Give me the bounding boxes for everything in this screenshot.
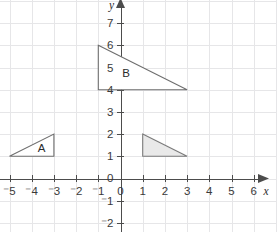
triangle-a <box>10 134 54 156</box>
triangle-image <box>143 134 187 156</box>
x-tick-label: ⁻3 <box>48 185 60 197</box>
shape-label-a: A <box>38 142 46 154</box>
y-tick-label-zero: 0 <box>107 172 113 184</box>
x-tick-label: 5 <box>228 185 234 197</box>
axes <box>0 0 269 232</box>
x-axis-arrow-icon <box>258 174 269 183</box>
y-tick-label: ⁻1 <box>101 195 113 207</box>
axis-tick-labels: ⁻5⁻4⁻3⁻2⁻10123456⁻2⁻101234567 <box>3 17 257 229</box>
y-axis-label: y <box>108 0 115 12</box>
grid-lines <box>0 0 277 232</box>
x-axis-label: x <box>262 185 269 197</box>
y-tick-label: 3 <box>107 106 113 118</box>
y-tick-label: 4 <box>107 84 114 96</box>
y-tick-label: 6 <box>107 39 113 51</box>
coordinate-plane-svg: ⁻5⁻4⁻3⁻2⁻10123456⁻2⁻101234567 AB xy <box>0 0 277 232</box>
axis-name-labels: xy <box>108 0 270 197</box>
x-tick-label: 2 <box>162 185 168 197</box>
x-tick-label: 0 <box>117 185 123 197</box>
y-tick-label: 2 <box>107 128 113 140</box>
y-tick-label: ⁻2 <box>101 217 113 229</box>
y-tick-label: 5 <box>107 62 113 74</box>
y-tick-label: 1 <box>107 150 113 162</box>
shape-label-b: B <box>122 67 130 79</box>
x-tick-label: 1 <box>139 185 145 197</box>
x-tick-label: 3 <box>184 185 190 197</box>
coordinate-plane-figure: ⁻5⁻4⁻3⁻2⁻10123456⁻2⁻101234567 AB xy <box>0 0 277 232</box>
x-tick-label: 6 <box>250 185 256 197</box>
x-tick-label: 4 <box>206 185 213 197</box>
y-tick-label: 7 <box>107 17 113 29</box>
x-tick-label: ⁻2 <box>70 185 82 197</box>
x-tick-label: ⁻5 <box>3 185 15 197</box>
x-tick-label: ⁻4 <box>25 185 38 197</box>
